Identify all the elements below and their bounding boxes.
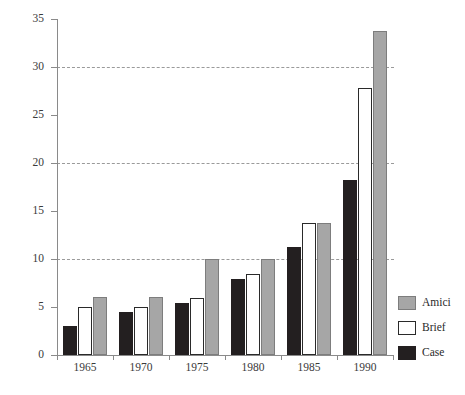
bar-chart: 05101520253035 196519701975198019851990 … — [0, 0, 465, 395]
bar-amici-1990 — [373, 31, 387, 355]
x-axis-tick — [393, 356, 394, 360]
x-axis-tick — [337, 356, 338, 360]
x-axis-tick — [169, 356, 170, 360]
y-axis-tick-label: 0 — [0, 349, 44, 361]
x-axis-tick-label: 1970 — [111, 362, 171, 374]
x-axis-tick — [57, 356, 58, 360]
legend-swatch-amici-icon — [398, 296, 416, 310]
legend-label: Case — [422, 347, 444, 359]
x-axis-tick-label: 1965 — [55, 362, 115, 374]
legend-label: Brief — [422, 322, 446, 334]
x-axis-tick-label: 1980 — [223, 362, 283, 374]
y-axis-tick-label: 10 — [0, 253, 44, 265]
bar-brief-1975 — [190, 298, 204, 355]
bar-amici-1975 — [205, 259, 219, 355]
legend-item-brief: Brief — [398, 317, 464, 339]
legend-swatch-case-icon — [398, 346, 416, 360]
bar-amici-1980 — [261, 259, 275, 355]
x-axis-tick — [281, 356, 282, 360]
y-axis-tick-label: 20 — [0, 157, 44, 169]
bar-amici-1970 — [149, 297, 163, 355]
bar-case-1965 — [63, 326, 77, 355]
bar-case-1970 — [119, 312, 133, 355]
x-axis-tick-label: 1990 — [335, 362, 395, 374]
legend-label: Amici — [422, 297, 451, 309]
bar-case-1980 — [231, 279, 245, 355]
x-axis-tick — [225, 356, 226, 360]
bar-amici-1965 — [93, 297, 107, 355]
y-axis-tick-label: 35 — [0, 13, 44, 25]
bar-case-1990 — [343, 180, 357, 355]
y-axis-tick-label: 30 — [0, 61, 44, 73]
bar-case-1975 — [175, 303, 189, 355]
bar-case-1985 — [287, 247, 301, 355]
y-axis-tick-label: 25 — [0, 109, 44, 121]
plot-area — [57, 19, 393, 355]
legend-swatch-brief-icon — [398, 321, 416, 335]
x-axis-tick-label: 1975 — [167, 362, 227, 374]
bar-brief-1985 — [302, 223, 316, 355]
y-axis-tick-label: 5 — [0, 301, 44, 313]
chart-legend: AmiciBriefCase — [398, 292, 464, 367]
y-axis-tick-label: 15 — [0, 205, 44, 217]
x-axis-tick — [113, 356, 114, 360]
legend-item-amici: Amici — [398, 292, 464, 314]
bar-brief-1970 — [134, 307, 148, 355]
bar-brief-1990 — [358, 88, 372, 355]
legend-item-case: Case — [398, 342, 464, 364]
bar-brief-1980 — [246, 274, 260, 355]
bar-brief-1965 — [78, 307, 92, 355]
x-axis-tick-label: 1985 — [279, 362, 339, 374]
bar-amici-1985 — [317, 223, 331, 355]
